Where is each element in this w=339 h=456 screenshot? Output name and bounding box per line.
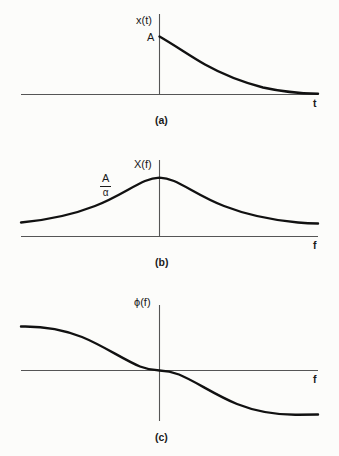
panel-a: x(t) A t (a) xyxy=(0,0,339,140)
panel-a-caption: (a) xyxy=(155,114,168,126)
panel-b-y-axis-label: X(f) xyxy=(134,159,152,170)
panel-c-caption: (c) xyxy=(155,431,168,443)
panel-b-peak-denominator: α xyxy=(100,188,111,199)
panel-a-plot xyxy=(0,0,339,140)
panel-c-y-axis-label: ϕ(f) xyxy=(134,297,151,308)
panel-c-plot xyxy=(0,290,339,456)
figure-container: x(t) A t (a) X(f) A α f (b) xyxy=(0,0,339,456)
panel-b-x-axis-label: f xyxy=(313,240,317,251)
panel-a-amplitude-label: A xyxy=(147,32,154,43)
panel-c: ϕ(f) f (c) xyxy=(0,290,339,456)
panel-b-peak-numerator: A xyxy=(100,173,111,185)
panel-a-curve xyxy=(160,37,319,94)
panel-b: X(f) A α f (b) xyxy=(0,148,339,282)
panel-b-peak-value-label: A α xyxy=(100,173,111,198)
panel-a-y-axis-label: x(t) xyxy=(136,15,152,26)
panel-a-x-axis-label: t xyxy=(313,98,317,109)
panel-b-plot xyxy=(0,148,339,282)
panel-b-caption: (b) xyxy=(155,256,168,268)
panel-b-curve xyxy=(21,178,318,224)
panel-c-x-axis-label: f xyxy=(313,374,317,385)
